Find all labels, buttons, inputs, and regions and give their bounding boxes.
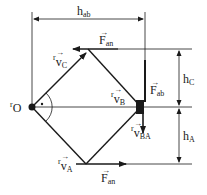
point-o-label: rO <box>10 100 22 115</box>
vector-arrow-glyph: → <box>102 166 110 175</box>
vector-arrow-glyph: → <box>56 48 64 57</box>
vector-arrow-glyph: → <box>100 28 108 37</box>
vector-arrow-glyph: → <box>151 78 159 87</box>
ha-label: hA <box>183 129 195 144</box>
hc-label: hC <box>183 72 194 87</box>
vector-arrow-glyph: → <box>134 119 142 128</box>
vector-arrow-glyph: → <box>114 85 122 94</box>
vector-arrow-glyph: → <box>61 152 69 161</box>
pivot-o <box>29 104 36 111</box>
hab-label: hab <box>77 4 91 19</box>
right-angle-dot <box>41 103 43 105</box>
slider-block-b <box>136 100 144 114</box>
dimension-hab: hab <box>32 4 145 107</box>
kinematics-diagram: hab hC hA rO Fan → Fan → Fab → rvC → rvB… <box>0 0 207 195</box>
dimension-hc-ha: hC hA <box>179 51 195 162</box>
